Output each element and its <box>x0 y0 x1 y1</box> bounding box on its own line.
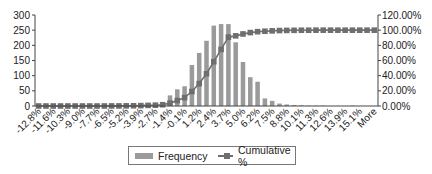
right-y-axis: 0.00%20.00%40.00%60.00%80.00%100.00%120.… <box>378 10 422 112</box>
cumulative-marker <box>320 27 326 33</box>
cumulative-marker <box>175 98 181 104</box>
left-tick-label: 100 <box>13 70 30 81</box>
cumulative-marker <box>269 28 275 34</box>
cumulative-marker <box>240 31 246 37</box>
line-marker-swatch-icon <box>218 152 233 160</box>
cumulative-marker <box>342 27 348 33</box>
left-tick-label: 0 <box>24 101 30 112</box>
cumulative-marker <box>291 28 297 34</box>
right-tick-label: 120.00% <box>382 10 422 21</box>
left-tick-label: 150 <box>13 55 30 66</box>
left-tick-label: 200 <box>13 40 30 51</box>
cumulative-marker <box>372 27 378 33</box>
legend-item-frequency: Frequency <box>135 150 208 162</box>
frequency-bar <box>248 77 253 106</box>
cumulative-marker <box>226 34 232 40</box>
left-tick-label: 250 <box>13 25 30 36</box>
frequency-bar <box>241 62 246 106</box>
right-tick-label: 40.00% <box>382 70 416 81</box>
left-y-axis: 050100150200250300 <box>13 10 35 112</box>
frequency-bar <box>233 42 238 106</box>
cumulative-marker <box>350 27 356 33</box>
frequency-bar <box>197 53 202 106</box>
cumulative-marker <box>299 27 305 33</box>
cumulative-marker <box>284 28 290 34</box>
frequency-bar <box>270 101 275 106</box>
cumulative-marker <box>335 27 341 33</box>
cumulative-marker <box>306 27 312 33</box>
left-tick-label: 50 <box>19 85 31 96</box>
frequency-bar <box>263 98 268 106</box>
left-tick-label: 300 <box>13 10 30 21</box>
cumulative-marker <box>255 29 261 35</box>
cumulative-marker <box>247 30 253 36</box>
frequency-bar <box>219 24 224 106</box>
cumulative-marker <box>262 28 268 34</box>
cumulative-marker <box>167 100 173 106</box>
legend-item-cumulative: Cumulative % <box>218 144 294 168</box>
frequency-bar <box>190 65 195 106</box>
legend-label: Cumulative % <box>238 144 293 168</box>
right-tick-label: 100.00% <box>382 25 422 36</box>
cumulative-marker <box>313 27 319 33</box>
cumulative-marker <box>196 81 202 87</box>
cumulative-marker <box>211 59 217 65</box>
cumulative-marker <box>204 71 210 77</box>
cumulative-marker <box>218 47 224 53</box>
cumulative-marker <box>233 33 239 39</box>
chart-legend: Frequency Cumulative % <box>128 146 296 165</box>
x-axis: -12.8%-11.6%-10.3%-9.0%-7.7%-6.5%-5.2%-3… <box>13 105 379 135</box>
cumulative-marker <box>328 27 334 33</box>
cumulative-marker <box>357 27 363 33</box>
right-tick-label: 60.00% <box>382 55 416 66</box>
frequency-bar <box>175 89 180 106</box>
cumulative-marker <box>189 89 195 95</box>
cumulative-marker <box>364 27 370 33</box>
legend-label: Frequency <box>158 150 208 162</box>
right-tick-label: 80.00% <box>382 40 416 51</box>
cumulative-marker <box>277 28 283 34</box>
cumulative-marker <box>182 95 188 101</box>
plot-area <box>36 24 377 109</box>
right-tick-label: 20.00% <box>382 85 416 96</box>
bar-swatch-icon <box>135 153 153 159</box>
right-tick-label: 0.00% <box>382 101 410 112</box>
frequency-bar <box>255 82 260 106</box>
